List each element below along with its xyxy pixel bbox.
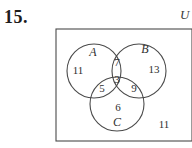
set-c-label: C bbox=[113, 116, 121, 128]
region-a-b-c-value: 3 bbox=[114, 73, 120, 85]
region-b-only-value: 13 bbox=[149, 63, 160, 75]
region-b-and-c-value: 9 bbox=[131, 82, 137, 94]
region-c-only-value: 6 bbox=[115, 101, 121, 113]
region-a-and-c-value: 5 bbox=[99, 82, 105, 94]
set-b-label: B bbox=[141, 43, 148, 55]
region-a-only-value: 11 bbox=[73, 64, 84, 76]
set-a-label: A bbox=[89, 46, 96, 58]
region-outside-sets-value: 11 bbox=[159, 118, 170, 130]
worksheet-page: 15. U A B C 11 7 13 3 5 9 6 11 bbox=[0, 0, 192, 148]
region-a-and-b-value: 7 bbox=[114, 56, 120, 68]
universal-set-rectangle bbox=[56, 29, 192, 141]
venn-diagram: A B C 11 7 13 3 5 9 6 11 bbox=[0, 0, 192, 148]
